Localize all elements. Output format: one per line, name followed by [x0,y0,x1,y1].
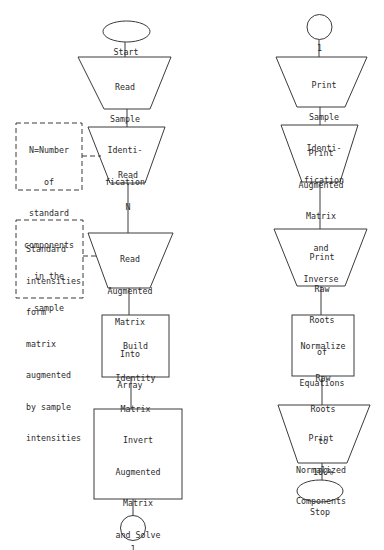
connector-in-label: 1 [310,22,330,64]
stop-label: Stop [295,486,345,528]
connector-out-label: 1 [123,523,143,550]
build-identity-label: Build Identity Matrix [102,320,169,425]
read-matrix-annotation: Standard intensities form matrix augment… [26,223,84,454]
read-n-label: Read N [98,149,158,223]
